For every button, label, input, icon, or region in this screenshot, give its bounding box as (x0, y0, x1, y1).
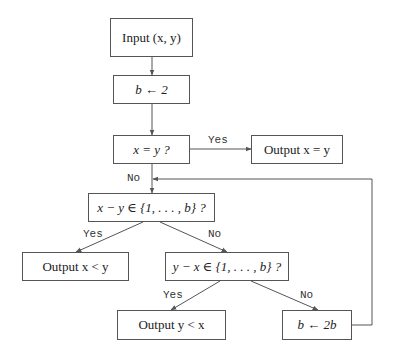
label-ymx-no: No (300, 289, 313, 301)
node-check-x-minus-y: x − y ∈ {1, . . . , b} ? (88, 193, 215, 222)
node-check-equal-label: x = y ? (133, 142, 170, 158)
node-init-b-label: b ← 2 (135, 82, 168, 98)
node-input: Input (x, y) (110, 18, 193, 57)
node-check-x-minus-y-label: x − y ∈ {1, . . . , b} ? (97, 200, 206, 216)
node-output-x-less: Output x < y (22, 252, 129, 281)
flowchart-canvas: Input (x, y) b ← 2 x = y ? Output x = y … (0, 0, 393, 358)
node-check-y-minus-x-label: y − x ∈ {1, . . . , b} ? (173, 259, 282, 275)
node-output-equal-label: Output x = y (264, 142, 330, 158)
node-check-y-minus-x: y − x ∈ {1, . . . , b} ? (165, 252, 289, 281)
node-double-b-label: b ← 2b (298, 317, 337, 333)
node-output-y-less: Output y < x (117, 310, 226, 340)
label-equal-no: No (127, 172, 140, 184)
node-input-label: Input (x, y) (122, 30, 181, 46)
label-xmy-no: No (208, 228, 221, 240)
flowchart-edges (0, 0, 393, 358)
node-output-y-less-label: Output y < x (138, 317, 204, 333)
node-check-equal: x = y ? (113, 135, 190, 164)
label-equal-yes: Yes (208, 134, 228, 146)
node-output-equal: Output x = y (251, 135, 343, 164)
node-double-b: b ← 2b (282, 310, 352, 340)
label-ymx-yes: Yes (163, 289, 183, 301)
node-init-b: b ← 2 (113, 75, 190, 104)
label-xmy-yes: Yes (83, 228, 103, 240)
node-output-x-less-label: Output x < y (42, 259, 108, 275)
